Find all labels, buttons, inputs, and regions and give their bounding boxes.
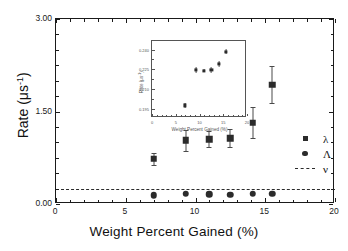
error-bar-cap — [228, 147, 233, 148]
x-tick-label: 10 — [190, 206, 199, 216]
axis-minor-tick — [251, 200, 252, 203]
data-point-capital-lambda — [206, 191, 213, 198]
axis-major-tick — [265, 198, 266, 202]
inset-y-tick-label: 0.225 — [130, 67, 149, 72]
axis-minor-tick — [182, 19, 183, 22]
inset-y-major-tick — [152, 69, 155, 70]
legend-circle-marker-icon — [292, 151, 318, 157]
inset-x-minor-tick — [228, 115, 229, 117]
inset-y-major-tick — [152, 89, 155, 90]
inset-x-minor-tick — [219, 115, 220, 117]
inset-x-minor-tick — [242, 115, 243, 117]
y-axis-title-paren: ) — [15, 72, 31, 77]
axis-minor-tick — [237, 19, 238, 22]
axis-major-tick — [329, 204, 333, 205]
axis-minor-tick — [56, 81, 59, 82]
axis-minor-tick — [98, 200, 99, 203]
error-bar-cap — [151, 153, 156, 154]
axis-minor-tick — [293, 200, 294, 203]
axis-minor-tick — [84, 19, 85, 22]
axis-minor-tick — [321, 200, 322, 203]
axis-minor-tick — [140, 200, 141, 203]
axis-minor-tick — [56, 158, 59, 159]
data-point-lambda — [150, 156, 157, 163]
axis-minor-tick — [56, 173, 59, 174]
inset-x-minor-tick — [157, 115, 158, 117]
axis-minor-tick — [56, 65, 59, 66]
inset-y-tick-label: 0.240 — [130, 47, 149, 52]
inset-plot-area: Rate (μs-1) Weight Percent Gained (%) 05… — [151, 40, 246, 117]
inset-x-minor-tick — [238, 115, 239, 117]
error-bar-cap — [207, 147, 212, 148]
axis-minor-tick — [223, 200, 224, 203]
axis-major-tick — [196, 198, 197, 202]
data-point-capital-lambda — [227, 192, 234, 199]
axis-major-tick — [56, 204, 60, 205]
error-bar-cap — [183, 151, 188, 152]
inset-y-tick-label: 0.210 — [130, 87, 149, 92]
legend-label-capital-lambda: Λ — [318, 148, 331, 160]
error-bar-cap — [250, 107, 255, 108]
x-tick-label: 5 — [122, 206, 127, 216]
inset-x-major-tick — [200, 114, 201, 117]
axis-minor-tick — [331, 189, 334, 190]
inset-x-minor-tick — [209, 115, 210, 117]
axis-minor-tick — [56, 96, 59, 97]
axis-minor-tick — [279, 200, 280, 203]
y-tick-label: 3.00 — [22, 13, 52, 23]
axis-minor-tick — [182, 200, 183, 203]
axis-minor-tick — [56, 189, 59, 190]
error-bar-cap — [270, 66, 275, 67]
inset-x-minor-tick — [195, 115, 196, 117]
inset-x-tick-label: 10 — [197, 120, 201, 125]
inset-x-tick-label: 5 — [175, 120, 177, 125]
y-tick-label: 0.00 — [22, 198, 52, 208]
axis-minor-tick — [168, 200, 169, 203]
inset-data-point — [224, 50, 227, 53]
data-point-lambda — [182, 137, 189, 144]
axis-minor-tick — [112, 200, 113, 203]
inset-x-minor-tick — [214, 115, 215, 117]
data-point-capital-lambda — [249, 190, 256, 197]
axis-minor-tick — [112, 19, 113, 22]
axis-minor-tick — [56, 50, 59, 51]
data-point-lambda — [206, 136, 213, 143]
data-point-lambda — [227, 135, 234, 142]
axis-minor-tick — [321, 19, 322, 22]
inset-y-axis-title: Rate (μs-1) — [138, 52, 145, 112]
legend-item-capital-lambda: Λ — [292, 146, 340, 161]
inset-x-axis-title: Weight Percent Gained (%) — [152, 127, 247, 132]
inset-x-tick-label: 15 — [221, 120, 225, 125]
axis-minor-tick — [307, 19, 308, 22]
data-point-capital-lambda — [182, 190, 189, 197]
error-bar-cap — [151, 165, 156, 166]
inset-x-major-tick — [247, 114, 248, 117]
axis-major-tick — [56, 112, 60, 113]
legend-dashed-line-icon — [292, 168, 318, 169]
inset-x-minor-tick — [185, 115, 186, 117]
axis-major-tick — [56, 198, 57, 202]
inset-x-major-tick — [176, 114, 177, 117]
axis-minor-tick — [331, 65, 334, 66]
inset-x-minor-tick — [171, 115, 172, 117]
axis-minor-tick — [154, 200, 155, 203]
axis-minor-tick — [279, 19, 280, 22]
axis-minor-tick — [154, 19, 155, 22]
inset-x-minor-tick — [204, 115, 205, 117]
axis-minor-tick — [293, 19, 294, 22]
axis-minor-tick — [307, 200, 308, 203]
axis-major-tick — [335, 19, 336, 23]
axis-minor-tick — [331, 50, 334, 51]
legend: λ Λ ν — [292, 131, 340, 176]
data-point-lambda — [269, 82, 276, 89]
x-tick-label: 0 — [53, 206, 58, 216]
data-point-lambda — [249, 119, 256, 126]
inset-x-major-tick — [152, 114, 153, 117]
inset-y-minor-tick — [152, 59, 154, 60]
data-point-capital-lambda — [269, 190, 276, 197]
axis-minor-tick — [56, 142, 59, 143]
legend-label-lambda: λ — [318, 133, 328, 145]
axis-major-tick — [265, 19, 266, 23]
axis-minor-tick — [209, 200, 210, 203]
axis-minor-tick — [251, 19, 252, 22]
